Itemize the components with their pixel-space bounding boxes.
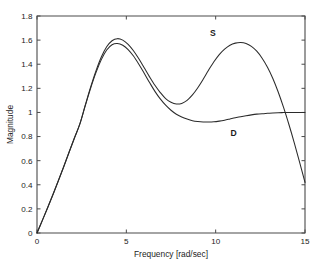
x-tick-label: 15 <box>300 237 310 246</box>
x-axis-title: Frequency [rad/sec] <box>134 249 208 259</box>
y-tick-label: 1 <box>28 108 33 117</box>
y-tick-label: 1.4 <box>21 60 33 69</box>
y-tick-label: 0.8 <box>21 132 33 141</box>
y-axis-title: Magnitude <box>5 105 15 144</box>
y-tick-label: 0.6 <box>21 157 33 166</box>
magnitude-frequency-chart: 00.20.40.60.811.21.41.61.8 051015 Freque… <box>0 0 325 262</box>
series-label-d: D <box>230 128 236 138</box>
figure-container: 00.20.40.60.811.21.41.61.8 051015 Freque… <box>0 0 325 262</box>
y-tick-label: 1.6 <box>21 36 33 45</box>
y-tick-label: 1.8 <box>21 12 33 21</box>
curve-s <box>37 39 305 233</box>
y-tick-label: 0.4 <box>21 181 33 190</box>
x-tick-label: 0 <box>35 237 40 246</box>
y-tick-label: 1.2 <box>21 84 33 93</box>
axis-titles: Frequency [rad/sec] Magnitude <box>5 105 208 259</box>
series-label-s: S <box>210 28 216 38</box>
data-series <box>37 39 305 233</box>
axis-box <box>37 16 305 233</box>
x-axis-ticks: 051015 <box>35 16 310 246</box>
y-tick-label: 0 <box>28 229 33 238</box>
curve-d <box>37 43 305 233</box>
x-tick-label: 10 <box>211 237 221 246</box>
y-axis-ticks: 00.20.40.60.811.21.41.61.8 <box>21 12 305 238</box>
plot-frame <box>37 16 305 233</box>
x-tick-label: 5 <box>124 237 129 246</box>
y-tick-label: 0.2 <box>21 205 33 214</box>
